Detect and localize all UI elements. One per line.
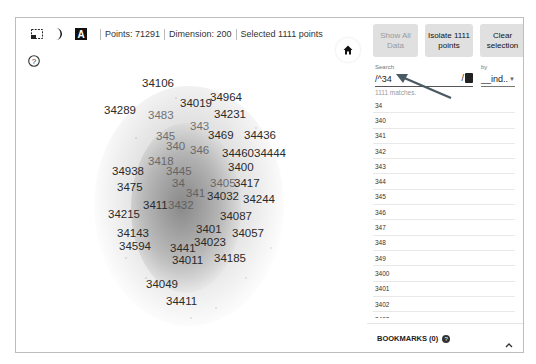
point-label[interactable]: 3401: [196, 223, 222, 235]
points-count: Points: 71291: [105, 29, 160, 39]
home-icon: [343, 45, 353, 55]
point-label[interactable]: 3411: [143, 199, 168, 211]
svg-text:A: A: [77, 29, 84, 40]
point-label[interactable]: 34011: [172, 254, 203, 266]
list-item[interactable]: 341: [373, 129, 515, 144]
list-item[interactable]: 343: [373, 159, 515, 174]
point-label[interactable]: 34019: [180, 97, 212, 109]
search-by-dropdown[interactable]: __ind.. ▼: [481, 72, 515, 87]
point-label[interactable]: 3400: [228, 161, 254, 173]
list-item[interactable]: 345: [373, 190, 515, 205]
point-label[interactable]: 34057: [232, 227, 264, 239]
list-item[interactable]: 3401: [373, 282, 515, 297]
search-results-list[interactable]: 34 340 341 342 343 344 345 346 347 348 3…: [373, 98, 515, 318]
inspector-panel: Show All Data Isolate 1111 points Clear …: [367, 18, 523, 352]
toolbar: A Points: 71291 Dimension: 200 Selected …: [30, 26, 323, 42]
list-item[interactable]: 347: [373, 220, 515, 235]
projection-canvas[interactable]: A Points: 71291 Dimension: 200 Selected …: [16, 18, 367, 352]
chevron-down-icon: ▼: [509, 76, 515, 82]
point-label[interactable]: 34444: [254, 147, 286, 159]
point-label[interactable]: 34938: [112, 165, 144, 177]
point-label[interactable]: 34: [172, 177, 185, 189]
point-label[interactable]: 340: [166, 140, 185, 152]
help-icon[interactable]: ?: [442, 335, 450, 343]
regex-toggle[interactable]: /: [461, 73, 473, 83]
list-item[interactable]: 340: [373, 113, 515, 128]
point-label[interactable]: 3417: [234, 177, 260, 189]
point-label[interactable]: 3469: [208, 129, 234, 141]
select-rectangle-icon[interactable]: [30, 27, 44, 41]
list-item[interactable]: 3400: [373, 266, 515, 281]
list-item[interactable]: 342: [373, 144, 515, 159]
bookmarks-title: BOOKMARKS (0): [377, 334, 438, 343]
point-label[interactable]: 3475: [117, 181, 143, 193]
point-label[interactable]: 34289: [104, 104, 136, 116]
bookmarks-header[interactable]: BOOKMARKS (0) ?: [367, 323, 523, 353]
point-label[interactable]: 34460: [222, 147, 254, 159]
regex-icon: [465, 73, 473, 83]
point-label[interactable]: 34436: [244, 129, 276, 141]
point-label[interactable]: 34594: [119, 240, 151, 252]
point-label[interactable]: 346: [190, 144, 209, 156]
point-label[interactable]: 3405: [210, 177, 236, 189]
point-label[interactable]: 3483: [148, 109, 174, 121]
clear-selection-button[interactable]: Clear selection: [480, 24, 524, 57]
search-input[interactable]: /^34 /: [375, 72, 473, 87]
dimension-count: Dimension: 200: [169, 29, 232, 39]
point-label[interactable]: 34185: [214, 252, 246, 264]
point-label[interactable]: 34023: [194, 236, 226, 248]
point-label[interactable]: 34049: [146, 278, 178, 290]
home-button[interactable]: [336, 38, 360, 62]
point-label[interactable]: 34411: [166, 295, 197, 307]
point-label[interactable]: 3441: [170, 242, 196, 254]
by-label: by: [481, 64, 487, 70]
point-label[interactable]: 341: [186, 187, 205, 199]
list-item[interactable]: 349: [373, 251, 515, 266]
point-label[interactable]: 34244: [243, 193, 275, 205]
match-count: 1111 matches.: [375, 89, 416, 96]
chevron-up-icon[interactable]: [505, 334, 513, 352]
point-label[interactable]: 34964: [210, 91, 242, 103]
point-label[interactable]: 34087: [220, 210, 252, 222]
help-circle-icon[interactable]: ?: [28, 53, 40, 65]
show-all-data-button[interactable]: Show All Data: [373, 24, 418, 57]
embedding-projector: A Points: 71291 Dimension: 200 Selected …: [15, 17, 524, 353]
label-toggle-icon[interactable]: A: [74, 27, 88, 41]
point-label[interactable]: 3445: [166, 165, 192, 177]
point-label[interactable]: 34143: [117, 227, 149, 239]
search-value: /^34: [375, 74, 392, 84]
night-mode-icon[interactable]: [52, 27, 66, 41]
isolate-points-button[interactable]: Isolate 1111 points: [425, 24, 473, 57]
point-label[interactable]: 343: [190, 120, 209, 132]
point-label[interactable]: 34106: [142, 77, 174, 89]
point-label[interactable]: 34231: [214, 108, 246, 120]
search-label: Search: [375, 64, 394, 70]
search-by-value: __ind..: [481, 74, 508, 84]
list-item[interactable]: 346: [373, 205, 515, 220]
list-item[interactable]: 3402: [373, 297, 515, 312]
svg-text:?: ?: [32, 57, 37, 66]
regex-marker: /: [461, 73, 464, 83]
list-item[interactable]: 34: [373, 98, 515, 113]
selected-count: Selected 1111 points: [241, 29, 323, 39]
list-item[interactable]: 3403: [373, 312, 515, 318]
list-item[interactable]: 348: [373, 236, 515, 251]
list-item[interactable]: 344: [373, 174, 515, 189]
point-label[interactable]: 3432: [168, 199, 194, 211]
divider: [236, 29, 237, 40]
divider: [100, 29, 101, 40]
point-label[interactable]: 34215: [108, 208, 140, 220]
divider: [164, 29, 165, 40]
point-label[interactable]: 34032: [207, 190, 239, 202]
